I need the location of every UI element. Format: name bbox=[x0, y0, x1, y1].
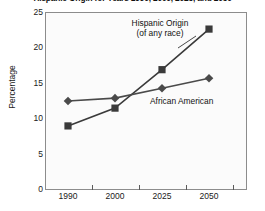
hispanic-origin-label: Hispanic Origin (of any race) bbox=[112, 18, 208, 38]
hispanic-origin-label-line2: (of any race) bbox=[112, 28, 208, 38]
chart-figure: Hispanic Origin for Years 1990, 2000, 20… bbox=[0, 0, 265, 211]
series-hispanic-origin bbox=[64, 25, 212, 129]
hispanic-origin-label-line1: Hispanic Origin bbox=[112, 18, 208, 28]
african-american-label: African American bbox=[150, 96, 213, 106]
